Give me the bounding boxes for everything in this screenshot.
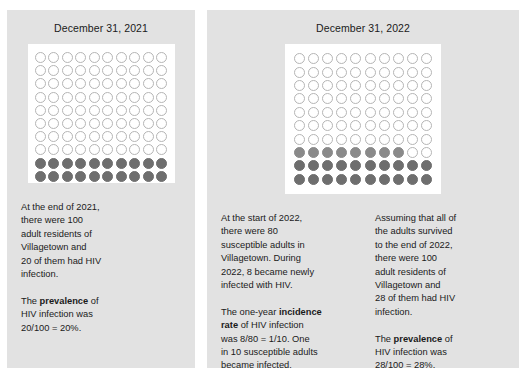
grid-cell <box>420 52 434 65</box>
dot-empty-icon <box>294 93 305 104</box>
dot-empty-icon <box>308 53 319 64</box>
grid-cell <box>320 119 334 132</box>
grid-cell <box>306 173 320 186</box>
dot-empty-icon <box>89 52 100 63</box>
grid-cell <box>335 52 349 65</box>
dot-prevalent-icon <box>129 158 140 169</box>
grid-cell <box>155 77 169 90</box>
dot-empty-icon <box>143 131 154 142</box>
dot-empty-icon <box>116 52 127 63</box>
dot-empty-icon <box>35 144 46 155</box>
dot-prevalent-icon <box>407 160 418 171</box>
dot-empty-icon <box>393 93 404 104</box>
grid-cell <box>61 91 75 104</box>
dot-empty-icon <box>308 67 319 78</box>
dot-empty-icon <box>379 107 390 118</box>
dot-empty-icon <box>407 134 418 145</box>
grid-cell <box>406 159 420 172</box>
dot-prevalent-icon <box>379 174 390 185</box>
text-segment: At the start of 2022, there were 80 susc… <box>221 213 314 290</box>
dot-empty-icon <box>129 52 140 63</box>
dot-empty-icon <box>294 134 305 145</box>
grid-cell <box>47 143 61 156</box>
grid-cell <box>115 130 129 143</box>
grid-cell <box>292 79 306 92</box>
grid-cell <box>34 51 48 64</box>
dot-empty-icon <box>322 120 333 131</box>
grid-cell <box>155 130 169 143</box>
dot-prevalent-icon <box>48 171 59 182</box>
grid-cell <box>115 143 129 156</box>
dot-empty-icon <box>35 52 46 63</box>
dot-empty-icon <box>62 105 73 116</box>
grid-cell <box>391 159 405 172</box>
grid-cell <box>335 146 349 159</box>
dot-empty-icon <box>35 118 46 129</box>
text-segment: The one-year <box>221 307 279 317</box>
grid-cell <box>335 159 349 172</box>
grid-cell <box>155 91 169 104</box>
dot-empty-icon <box>156 92 167 103</box>
dot-empty-icon <box>116 105 127 116</box>
grid-cell <box>47 91 61 104</box>
dot-empty-icon <box>336 67 347 78</box>
panel-2022: December 31, 2022 At the start of 2022, … <box>207 10 519 368</box>
grid-cell <box>420 92 434 105</box>
grid-cell <box>74 170 88 183</box>
dot-empty-icon <box>322 80 333 91</box>
dot-empty-icon <box>393 80 404 91</box>
dot-empty-icon <box>75 78 86 89</box>
dot-prevalent-icon <box>365 174 376 185</box>
grid-cell <box>391 146 405 159</box>
grid-cell <box>115 104 129 117</box>
grid-cell <box>363 65 377 78</box>
dot-empty-icon <box>350 93 361 104</box>
dot-empty-icon <box>156 78 167 89</box>
grid-cell <box>47 64 61 77</box>
dot-empty-icon <box>350 134 361 145</box>
grid-cell <box>306 79 320 92</box>
dot-empty-icon <box>393 67 404 78</box>
dot-prevalent-icon <box>322 174 333 185</box>
grid-cell <box>88 157 102 170</box>
dot-prevalent-icon <box>156 158 167 169</box>
grid-cell <box>142 117 156 130</box>
grid-cell <box>335 92 349 105</box>
grid-cell <box>128 157 142 170</box>
grid-cell <box>115 51 129 64</box>
dot-empty-icon <box>75 131 86 142</box>
dot-empty-icon <box>336 53 347 64</box>
grid-cell <box>391 106 405 119</box>
grid-cell <box>349 52 363 65</box>
dot-empty-icon <box>421 67 432 78</box>
grid-cell <box>128 130 142 143</box>
dot-empty-icon <box>143 78 154 89</box>
grid-cell <box>335 173 349 186</box>
paragraph: The one-year incidence rate of HIV infec… <box>221 306 359 373</box>
dot-prevalent-icon <box>89 158 100 169</box>
grid-cell <box>406 92 420 105</box>
dot-prevalent-icon <box>407 174 418 185</box>
grid-cell <box>47 77 61 90</box>
dot-empty-icon <box>129 144 140 155</box>
grid-cell <box>74 51 88 64</box>
emphasized-term: prevalence <box>40 296 89 306</box>
dot-empty-icon <box>116 118 127 129</box>
dot-empty-icon <box>336 80 347 91</box>
panel-2021: December 31, 2021 At the end of 2021, th… <box>7 10 195 368</box>
grid-cell <box>128 170 142 183</box>
grid-cell <box>74 77 88 90</box>
dot-empty-icon <box>379 67 390 78</box>
dot-empty-icon <box>143 52 154 63</box>
grid-cell <box>420 173 434 186</box>
dot-empty-icon <box>322 107 333 118</box>
grid-cell <box>377 79 391 92</box>
dot-empty-icon <box>75 105 86 116</box>
grid-cell <box>115 117 129 130</box>
dot-empty-icon <box>89 144 100 155</box>
dot-empty-icon <box>143 105 154 116</box>
dot-empty-icon <box>365 120 376 131</box>
dot-empty-icon <box>35 65 46 76</box>
dot-empty-icon <box>143 144 154 155</box>
dot-empty-icon <box>294 53 305 64</box>
